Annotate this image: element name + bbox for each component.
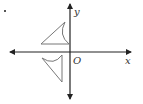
dot-mark bbox=[4, 10, 6, 12]
upper-figure bbox=[41, 22, 69, 44]
coordinate-diagram: y O x bbox=[0, 0, 143, 104]
x-axis-label: x bbox=[125, 55, 131, 66]
origin-label: O bbox=[73, 55, 81, 66]
y-axis-label: y bbox=[73, 6, 80, 17]
lower-figure bbox=[42, 55, 62, 82]
